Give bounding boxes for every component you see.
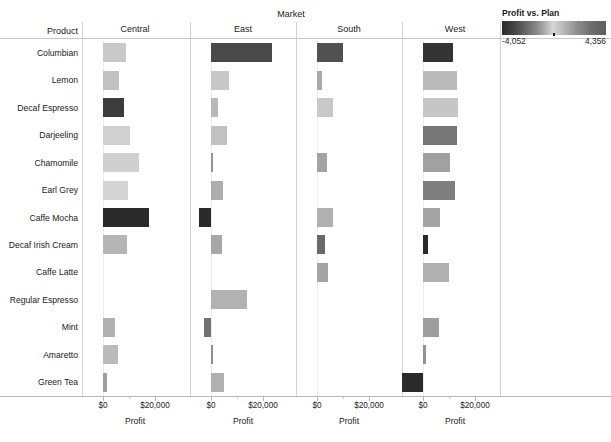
bar[interactable] [211,43,272,62]
column-header-south: South [296,24,402,34]
legend-max-label: 4,356 [585,36,606,46]
axis-tick-label: $20,000 [125,401,185,410]
bar[interactable] [211,98,218,117]
bar[interactable] [423,181,455,200]
panel-west [402,39,508,396]
panel-central [82,39,188,396]
row-label[interactable]: Columbian [0,48,78,58]
panel-south [296,39,402,396]
product-header: Product [0,26,78,36]
axis-tick-label: $20,000 [339,401,399,410]
row-label[interactable]: Amaretto [0,350,78,360]
row-label[interactable]: Lemon [0,75,78,85]
row-label[interactable]: Caffe Mocha [0,213,78,223]
axis-tick-label: $20,000 [445,401,505,410]
panel-rule [0,396,611,397]
axis-tick-label: $0 [393,401,453,410]
bar[interactable] [317,71,322,90]
bar[interactable] [211,373,224,392]
axis-tick-label: $0 [73,401,133,410]
axis-title-profit: Profit [190,416,296,426]
axis-title-profit: Profit [296,416,402,426]
axis-tick-label: $0 [181,401,241,410]
bar[interactable] [103,318,115,337]
panel-east [190,39,296,396]
bar[interactable] [211,153,213,172]
bar[interactable] [211,345,213,364]
row-label[interactable]: Mint [0,322,78,332]
bar[interactable] [204,318,211,337]
axis-minor-tick [449,397,450,399]
legend-title: Profit vs. Plan [502,8,608,18]
axis-title-profit: Profit [82,416,188,426]
bar[interactable] [423,208,440,227]
legend-color-ramp[interactable] [502,21,606,35]
row-label[interactable]: Caffe Latte [0,267,78,277]
market-title: Market [82,9,500,19]
bar[interactable] [317,208,333,227]
bar[interactable] [103,43,126,62]
bar[interactable] [211,290,247,309]
axis-minor-tick [129,397,130,399]
row-label[interactable]: Decaf Espresso [0,103,78,113]
column-header-central: Central [82,24,188,34]
bar[interactable] [423,98,458,117]
bar[interactable] [423,43,453,62]
axis-minor-tick [343,397,344,399]
bar[interactable] [103,126,130,145]
bar[interactable] [317,153,327,172]
bar[interactable] [103,235,127,254]
row-label[interactable]: Green Tea [0,377,78,387]
bar[interactable] [103,181,128,200]
legend: Profit vs. Plan -4,052 4,356 [500,8,608,48]
viz-root: Market Product CentralEastSouthWest Colu… [0,0,611,442]
row-label[interactable]: Regular Espresso [0,295,78,305]
axis-title-profit: Profit [402,416,508,426]
bar[interactable] [423,126,457,145]
row-label[interactable]: Earl Grey [0,185,78,195]
row-label[interactable]: Darjeeling [0,130,78,140]
bar[interactable] [211,71,229,90]
bar[interactable] [317,235,325,254]
axis-tick-label: $0 [287,401,347,410]
column-header-east: East [190,24,296,34]
bar[interactable] [423,263,449,282]
bar[interactable] [103,373,107,392]
bar[interactable] [317,98,333,117]
bar[interactable] [103,153,139,172]
bar[interactable] [211,181,223,200]
bar[interactable] [103,98,124,117]
row-label[interactable]: Chamomile [0,158,78,168]
bar[interactable] [423,71,457,90]
bar[interactable] [103,345,118,364]
axis-tick-label: $20,000 [233,401,293,410]
bar[interactable] [423,153,450,172]
bar[interactable] [211,126,227,145]
legend-labels: -4,052 4,356 [500,36,608,48]
bar[interactable] [103,71,119,90]
bar[interactable] [103,208,149,227]
bar[interactable] [199,208,211,227]
bar[interactable] [317,43,343,62]
bar[interactable] [423,318,439,337]
bar[interactable] [211,235,222,254]
column-header-west: West [402,24,508,34]
legend-min-label: -4,052 [502,36,526,46]
bar[interactable] [402,373,423,392]
bar[interactable] [317,263,328,282]
bar[interactable] [423,345,426,364]
row-label[interactable]: Decaf Irish Cream [0,240,78,250]
bar[interactable] [423,235,428,254]
axis-minor-tick [237,397,238,399]
